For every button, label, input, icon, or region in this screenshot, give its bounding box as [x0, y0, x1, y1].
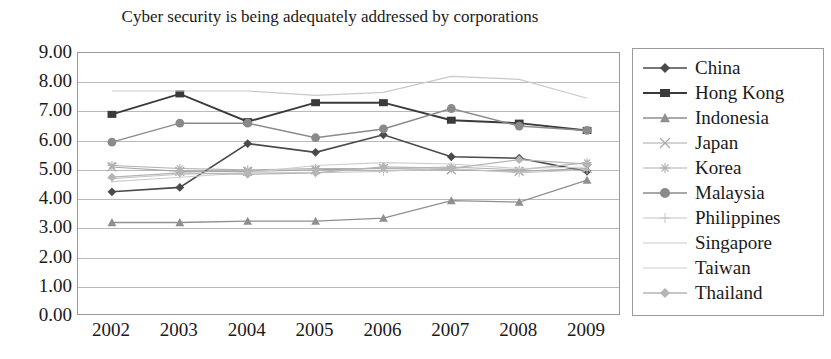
legend-item-hong-kong[interactable]: Hong Kong	[641, 80, 823, 105]
x-axis-tick-label: 2005	[280, 318, 350, 342]
legend-item-label: China	[689, 57, 740, 79]
chart-container: Cyber security is being adequately addre…	[0, 0, 831, 359]
legend-item-label: Hong Kong	[689, 82, 784, 104]
y-axis-tick-label: 1.00	[6, 276, 72, 295]
y-axis: 9.008.007.006.005.004.003.002.001.000.00	[0, 52, 72, 315]
legend-item-label: Thailand	[689, 282, 763, 304]
x-axis-tick-label: 2002	[76, 318, 146, 342]
x-axis-tick-label: 2009	[551, 318, 621, 342]
y-axis-tick-label: 6.00	[6, 130, 72, 149]
legend-item-china[interactable]: China	[641, 55, 823, 80]
legend-marker-icon	[641, 232, 689, 254]
legend-marker-icon	[641, 257, 689, 279]
series-indonesia	[108, 176, 592, 227]
y-axis-tick-label: 3.00	[6, 217, 72, 236]
x-axis-tick-label: 2007	[415, 318, 485, 342]
legend-marker-icon	[641, 157, 689, 179]
legend-item-taiwan[interactable]: Taiwan	[641, 255, 823, 280]
legend-marker-icon	[641, 207, 689, 229]
legend-item-label: Malaysia	[689, 182, 765, 204]
legend-marker-icon	[641, 82, 689, 104]
y-axis-tick-label: 2.00	[6, 247, 72, 266]
plot-area	[77, 52, 620, 315]
legend-item-korea[interactable]: Korea	[641, 155, 823, 180]
legend-item-label: Singapore	[689, 232, 772, 254]
legend-item-label: Taiwan	[689, 257, 751, 279]
legend-item-philippines[interactable]: Philippines	[641, 205, 823, 230]
legend-item-label: Indonesia	[689, 107, 769, 129]
legend-item-label: Philippines	[689, 207, 781, 229]
y-axis-tick-label: 5.00	[6, 159, 72, 178]
legend-item-thailand[interactable]: Thailand	[641, 280, 823, 305]
chart-legend: ChinaHong KongIndonesiaJapanKoreaMalaysi…	[632, 48, 824, 316]
legend-item-malaysia[interactable]: Malaysia	[641, 180, 823, 205]
chart-title: Cyber security is being adequately addre…	[0, 6, 660, 28]
x-axis-tick-label: 2008	[483, 318, 553, 342]
legend-item-label: Japan	[689, 132, 738, 154]
legend-marker-icon	[641, 182, 689, 204]
legend-marker-icon	[641, 57, 689, 79]
legend-marker-icon	[641, 107, 689, 129]
y-axis-tick-label: 9.00	[6, 42, 72, 61]
legend-item-japan[interactable]: Japan	[641, 130, 823, 155]
legend-marker-icon	[641, 282, 689, 304]
y-axis-tick-label: 0.00	[6, 305, 72, 324]
series-layer	[78, 53, 621, 316]
y-axis-tick-label: 7.00	[6, 100, 72, 119]
x-axis-tick-label: 2006	[347, 318, 417, 342]
y-axis-tick-label: 8.00	[6, 71, 72, 90]
legend-item-singapore[interactable]: Singapore	[641, 230, 823, 255]
x-axis-tick-label: 2004	[212, 318, 282, 342]
legend-marker-icon	[641, 132, 689, 154]
x-axis-tick-label: 2003	[144, 318, 214, 342]
y-axis-tick-label: 4.00	[6, 188, 72, 207]
series-malaysia	[108, 104, 592, 146]
legend-item-label: Korea	[689, 157, 741, 179]
legend-item-indonesia[interactable]: Indonesia	[641, 105, 823, 130]
x-axis: 20022003200420052006200720082009	[77, 318, 620, 348]
